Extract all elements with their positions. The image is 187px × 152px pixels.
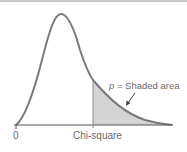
chi-square-diagram: 0 Chi-square p = Shaded area <box>0 0 187 152</box>
shaded-area-label: = Shaded area <box>114 80 180 91</box>
annotation-text: p = Shaded area <box>108 80 180 91</box>
chi-square-label: Chi-square <box>73 130 122 141</box>
origin-label: 0 <box>13 130 19 141</box>
arrow-head-icon <box>126 101 131 107</box>
annotation-arrow <box>128 93 135 103</box>
